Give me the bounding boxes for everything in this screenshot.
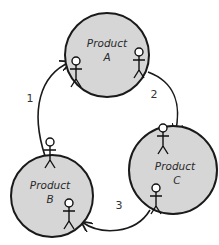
node-product-b: Product B — [11, 138, 93, 237]
node-a-label-line1: Product — [87, 37, 128, 49]
node-product-c: Product C — [129, 124, 217, 214]
node-c-label-line2: C — [173, 174, 181, 186]
product-cycle-diagram: 1 2 3 Product A Product B — [0, 0, 219, 245]
node-a-label-line2: A — [102, 51, 110, 63]
node-product-a: Product A — [65, 13, 149, 97]
node-b-label-line2: B — [46, 193, 53, 205]
edge-label-2: 2 — [151, 88, 158, 101]
edge-label-3: 3 — [116, 199, 123, 212]
arrow-c-to-b — [82, 210, 150, 231]
edge-label-1: 1 — [27, 92, 34, 105]
node-c-label-line1: Product — [155, 160, 196, 172]
node-b-label-line1: Product — [30, 179, 71, 191]
